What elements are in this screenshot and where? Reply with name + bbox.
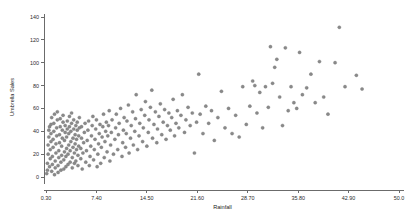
data-point	[113, 138, 116, 141]
y-tick-label: 40	[33, 128, 39, 134]
data-point	[133, 130, 136, 133]
data-point	[75, 138, 78, 141]
data-point	[360, 87, 363, 90]
data-point	[73, 151, 76, 154]
data-point	[76, 154, 79, 157]
x-tick-label: 28.70	[241, 195, 255, 201]
data-point	[88, 164, 91, 167]
data-point	[45, 172, 48, 175]
data-point	[322, 95, 325, 98]
data-point	[103, 156, 106, 159]
data-point	[52, 122, 55, 125]
data-point	[74, 159, 77, 162]
data-point	[184, 118, 187, 121]
data-point	[56, 164, 59, 167]
data-point	[61, 121, 64, 124]
data-point	[189, 124, 192, 127]
data-point	[281, 124, 284, 127]
data-point	[289, 85, 292, 88]
data-point	[125, 119, 128, 122]
y-tick-label: 140	[30, 14, 39, 20]
data-point	[258, 91, 261, 94]
data-point	[241, 85, 244, 88]
data-point	[204, 105, 207, 108]
data-point	[49, 148, 52, 151]
data-point	[107, 124, 110, 127]
data-point	[46, 162, 49, 165]
data-point	[245, 123, 248, 126]
data-point	[130, 124, 133, 127]
data-point	[68, 125, 71, 128]
data-point	[60, 145, 63, 148]
data-point	[54, 151, 57, 154]
data-point	[70, 111, 73, 114]
data-point	[121, 141, 124, 144]
data-point	[86, 139, 89, 142]
data-point	[116, 148, 119, 151]
data-point	[93, 138, 96, 141]
data-point	[145, 145, 148, 148]
data-point	[49, 132, 52, 135]
data-point	[70, 122, 73, 125]
data-point	[66, 153, 69, 156]
scatter-chart: 020406080100120140 0.307.4014.5021.6028.…	[0, 0, 413, 223]
data-point	[164, 138, 167, 141]
data-point	[89, 145, 92, 148]
data-point	[136, 148, 139, 151]
data-point	[47, 143, 50, 146]
data-point	[47, 135, 50, 138]
data-point	[98, 123, 101, 126]
data-point	[273, 66, 276, 69]
data-point	[152, 123, 155, 126]
data-point	[253, 84, 256, 87]
data-point	[142, 126, 145, 129]
data-point	[151, 137, 154, 140]
data-point	[129, 137, 132, 140]
data-point	[71, 146, 74, 149]
data-point	[172, 98, 175, 101]
data-point	[54, 142, 57, 145]
data-point	[46, 169, 49, 172]
data-point	[127, 103, 130, 106]
data-point	[80, 125, 83, 128]
data-point	[118, 122, 121, 125]
data-point	[326, 113, 329, 116]
data-point	[74, 124, 77, 127]
data-point	[106, 134, 109, 137]
data-point	[88, 155, 91, 158]
data-point	[248, 105, 251, 108]
data-point	[47, 153, 50, 156]
data-point	[50, 170, 53, 173]
data-point	[64, 124, 67, 127]
y-axis-title: Umbrella Sales	[9, 78, 15, 116]
data-point	[287, 109, 290, 112]
data-point	[338, 26, 341, 29]
data-point	[64, 131, 67, 134]
data-point	[103, 140, 106, 143]
data-point	[68, 115, 71, 118]
data-point	[59, 117, 62, 120]
plot-canvas: 020406080100120140 0.307.4014.5021.6028.…	[0, 0, 413, 223]
data-point	[284, 46, 287, 49]
data-point	[174, 122, 177, 125]
data-point	[149, 106, 152, 109]
data-point	[177, 126, 180, 129]
data-point	[98, 132, 101, 135]
data-points	[45, 26, 364, 177]
data-point	[238, 135, 241, 138]
data-point	[97, 142, 100, 145]
data-point	[264, 85, 267, 88]
data-point	[109, 143, 112, 146]
data-point	[59, 125, 62, 128]
data-point	[292, 101, 295, 104]
data-point	[95, 118, 98, 121]
data-point	[124, 146, 127, 149]
data-point	[309, 73, 312, 76]
data-point	[183, 131, 186, 134]
data-point	[119, 107, 122, 110]
y-tick-label: 80	[33, 83, 39, 89]
data-point	[355, 74, 358, 77]
data-point	[52, 146, 55, 149]
data-point	[91, 115, 94, 118]
data-point	[52, 138, 55, 141]
